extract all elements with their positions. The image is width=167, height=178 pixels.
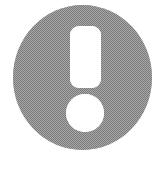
- exclamation-bar: [70, 26, 101, 88]
- exclamation-mark-icon: Exclamation mark icon: [0, 0, 167, 178]
- icon-canvas: Exclamation mark icon: [0, 0, 167, 178]
- exclamation-dot: [66, 94, 104, 132]
